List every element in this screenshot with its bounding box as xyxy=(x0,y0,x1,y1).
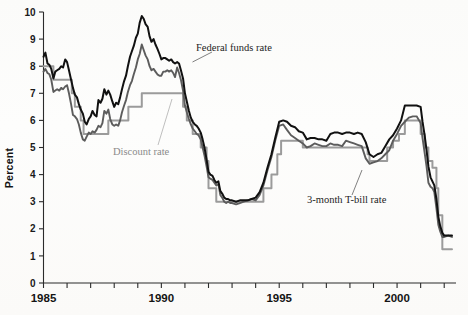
federal-funds-label: Federal funds rate xyxy=(196,42,272,53)
discount-rate-label: Discount rate xyxy=(113,146,170,157)
y-tick-label: 7 xyxy=(30,88,36,99)
tbill-label: 3-month T-bill rate xyxy=(307,194,387,205)
series-discount-rate xyxy=(44,66,452,249)
annotation-tbill: 3-month T-bill rate xyxy=(307,170,387,205)
y-tick-label: 4 xyxy=(30,169,36,180)
y-tick-label: 3 xyxy=(30,196,36,207)
annotation-discount-rate: Discount rate xyxy=(113,99,172,157)
y-tick-label: 1 xyxy=(30,251,36,262)
x-tick-label: 2000 xyxy=(384,292,410,304)
annotation-federal-funds: Federal funds rate xyxy=(193,42,273,62)
interest-rates-line-chart: 012345678910 1985199019952000 Percent Fe… xyxy=(0,0,468,315)
y-tick-label: 6 xyxy=(30,115,36,126)
federal-funds-leader-line xyxy=(193,52,213,62)
y-tick-label: 2 xyxy=(30,223,36,234)
x-axis-ticks xyxy=(44,283,445,288)
y-tick-label: 8 xyxy=(30,61,36,72)
x-tick-label: 1990 xyxy=(149,292,175,304)
y-tick-label: 0 xyxy=(30,278,36,289)
y-tick-label: 9 xyxy=(30,34,36,45)
discount-rate-leader-line xyxy=(158,99,172,145)
x-tick-label: 1995 xyxy=(266,292,292,304)
y-axis-title: Percent xyxy=(3,147,15,188)
series-3month-tbill-rate xyxy=(44,45,452,237)
y-axis-ticks: 012345678910 xyxy=(24,7,43,289)
tbill-leader-line xyxy=(352,170,362,195)
y-tick-label: 5 xyxy=(30,142,36,153)
x-axis-tick-labels: 1985199019952000 xyxy=(31,292,410,304)
y-tick-label: 10 xyxy=(24,7,36,18)
x-tick-label: 1985 xyxy=(31,292,57,304)
